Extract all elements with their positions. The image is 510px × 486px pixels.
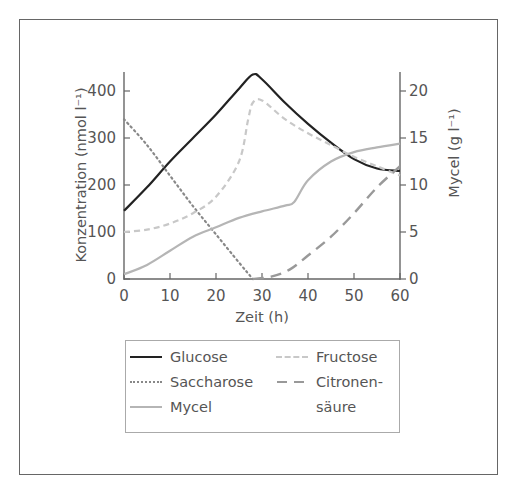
legend-swatch-solid-light	[130, 406, 162, 408]
y-right-tick-label: 10	[409, 176, 428, 194]
legend-label: Fructose	[316, 348, 377, 366]
x-tick-label: 40	[298, 287, 317, 305]
x-tick-label: 20	[206, 287, 225, 305]
x-tick-label: 50	[344, 287, 363, 305]
y-right-tick-label: 20	[409, 82, 428, 100]
y-axis-right-title: Mycel (g l⁻¹)	[446, 108, 462, 197]
y-left-tick-label: 200	[87, 176, 116, 194]
y-left-tick-label: 0	[106, 270, 116, 288]
legend-swatch-dotted	[130, 381, 162, 383]
legend-label: Saccharose	[170, 373, 253, 391]
legend-swatch-dashed-light	[276, 356, 308, 358]
y-axis-left-title: Konzentration (nmol l⁻¹)	[73, 87, 89, 262]
legend-label: Citronen-	[316, 373, 383, 391]
x-tick-label: 10	[160, 287, 179, 305]
x-tick-label: 60	[390, 287, 409, 305]
legend-label: Glucose	[170, 348, 228, 366]
x-axis-title: Zeit (h)	[235, 309, 289, 325]
y-left-tick-label: 300	[87, 129, 116, 147]
legend-item-fructose: Fructose	[276, 348, 377, 366]
x-tick-label: 30	[252, 287, 271, 305]
y-right-tick-label: 5	[409, 223, 419, 241]
series-line-glucose	[124, 74, 400, 211]
axis-ticks: 0102030405060010020030040005101520	[87, 82, 428, 305]
legend-label: Mycel	[170, 398, 212, 416]
legend-label-group: Citronen- säure	[316, 373, 383, 416]
legend-label: säure	[316, 398, 383, 416]
y-left-tick-label: 100	[87, 223, 116, 241]
y-left-tick-label: 400	[87, 82, 116, 100]
series-line-citronensure	[253, 166, 400, 279]
legend-item-citronensaeure: Citronen- säure	[276, 373, 383, 416]
data-series	[124, 74, 400, 279]
legend-swatch-dashed-dark	[276, 373, 310, 391]
y-right-tick-label: 15	[409, 129, 428, 147]
y-right-tick-label: 0	[409, 270, 419, 288]
legend-item-saccharose: Saccharose	[130, 373, 253, 391]
legend-item-glucose: Glucose	[130, 348, 228, 366]
legend: Glucose Saccharose Mycel Fructose Citron…	[125, 340, 400, 433]
x-tick-label: 0	[119, 287, 129, 305]
legend-item-mycel: Mycel	[130, 398, 212, 416]
legend-swatch-solid-dark	[130, 356, 162, 358]
